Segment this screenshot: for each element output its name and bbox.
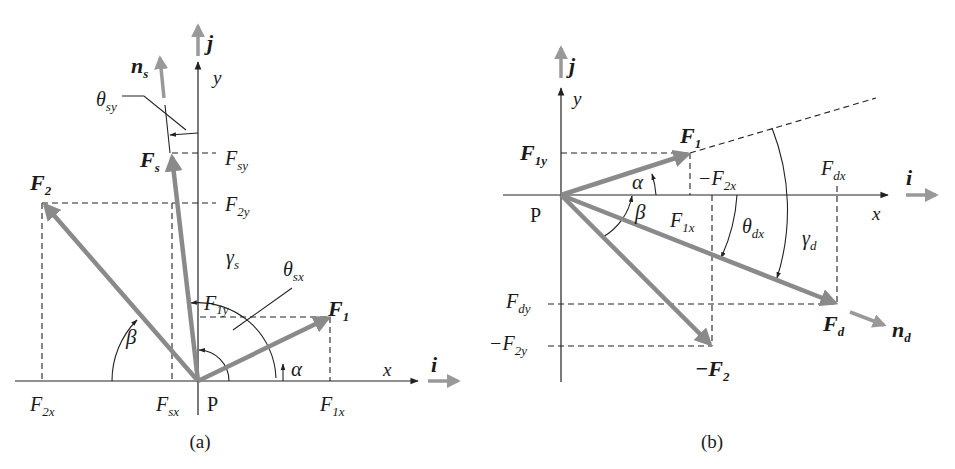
nd-unit-vector	[850, 312, 884, 325]
ns-unit-vector	[160, 58, 164, 98]
origin-P-label: P	[207, 393, 218, 415]
beta-label: β	[125, 325, 137, 349]
ns-line-marker	[165, 105, 170, 153]
Fsy-label: Fsy	[224, 147, 248, 173]
y-axis-label: y	[571, 88, 582, 109]
nd-label: nd	[892, 317, 911, 345]
F1x-label: F1x	[319, 393, 345, 419]
j-label: j	[566, 53, 576, 78]
y-axis-label: y	[211, 67, 222, 88]
gamma-d-arc	[772, 128, 788, 278]
Fsx-label: Fsx	[155, 393, 179, 419]
gamma-d-label: γd	[802, 227, 817, 253]
alpha-label: α	[291, 357, 303, 381]
F1-vector	[198, 318, 328, 381]
F1x-label: F1x	[669, 209, 695, 235]
theta-sy-label: θsy	[96, 88, 117, 114]
F2-vector	[45, 205, 198, 381]
theta-sx-label: θsx	[283, 258, 304, 284]
negF2-label: −F2	[695, 356, 730, 384]
alpha-label: α	[632, 170, 644, 194]
F1-label: F1	[679, 123, 701, 151]
caption-a: (a)	[189, 431, 210, 453]
F1y-label: F1y	[203, 292, 229, 317]
Fs-vector	[172, 157, 198, 381]
theta-dx-arc	[721, 195, 737, 258]
F1-vector	[561, 154, 688, 195]
x-axis-label: x	[382, 359, 392, 380]
panel-b: j y F1 F1y −F2x Fdx i x α P β F1x θdx γd…	[489, 48, 936, 453]
Fd-vector	[561, 195, 835, 303]
vector-diagram: j y x i ns θsy Fs Fsy F2 F2y γs θsx F1y …	[0, 0, 955, 469]
negF2x-label: −F2x	[698, 167, 736, 193]
alpha-arc	[652, 174, 656, 195]
Fd-label: Fd	[822, 311, 845, 339]
theta-sy-arc	[170, 133, 198, 135]
Fs-label: Fs	[139, 147, 160, 175]
F2x-label: F2x	[29, 393, 55, 419]
x-axis-label: x	[871, 203, 881, 224]
caption-b: (b)	[701, 431, 723, 453]
theta-sy-leader	[122, 96, 186, 130]
F1-label: F1	[327, 296, 349, 324]
Fdx-label: Fdx	[820, 157, 846, 183]
theta-sx-leader	[233, 288, 292, 330]
F1y-label: F1y	[519, 140, 547, 168]
panel-a: j y x i ns θsy Fs Fsy F2 F2y γs θsx F1y …	[15, 26, 458, 453]
F2-label: F2	[29, 170, 52, 198]
F2y-label: F2y	[224, 193, 250, 219]
j-label: j	[204, 30, 214, 55]
F1-extension	[690, 98, 876, 153]
gamma-s-label: γs	[226, 246, 239, 272]
Fdy-label: Fdy	[505, 290, 531, 316]
ns-label: ns	[131, 53, 148, 81]
beta-label: β	[634, 200, 646, 224]
origin-P-label: P	[530, 204, 541, 226]
i-label: i	[431, 352, 438, 377]
i-label: i	[906, 165, 913, 190]
theta-dx-label: θdx	[742, 215, 764, 241]
negF2y-label: −F2y	[489, 332, 527, 358]
